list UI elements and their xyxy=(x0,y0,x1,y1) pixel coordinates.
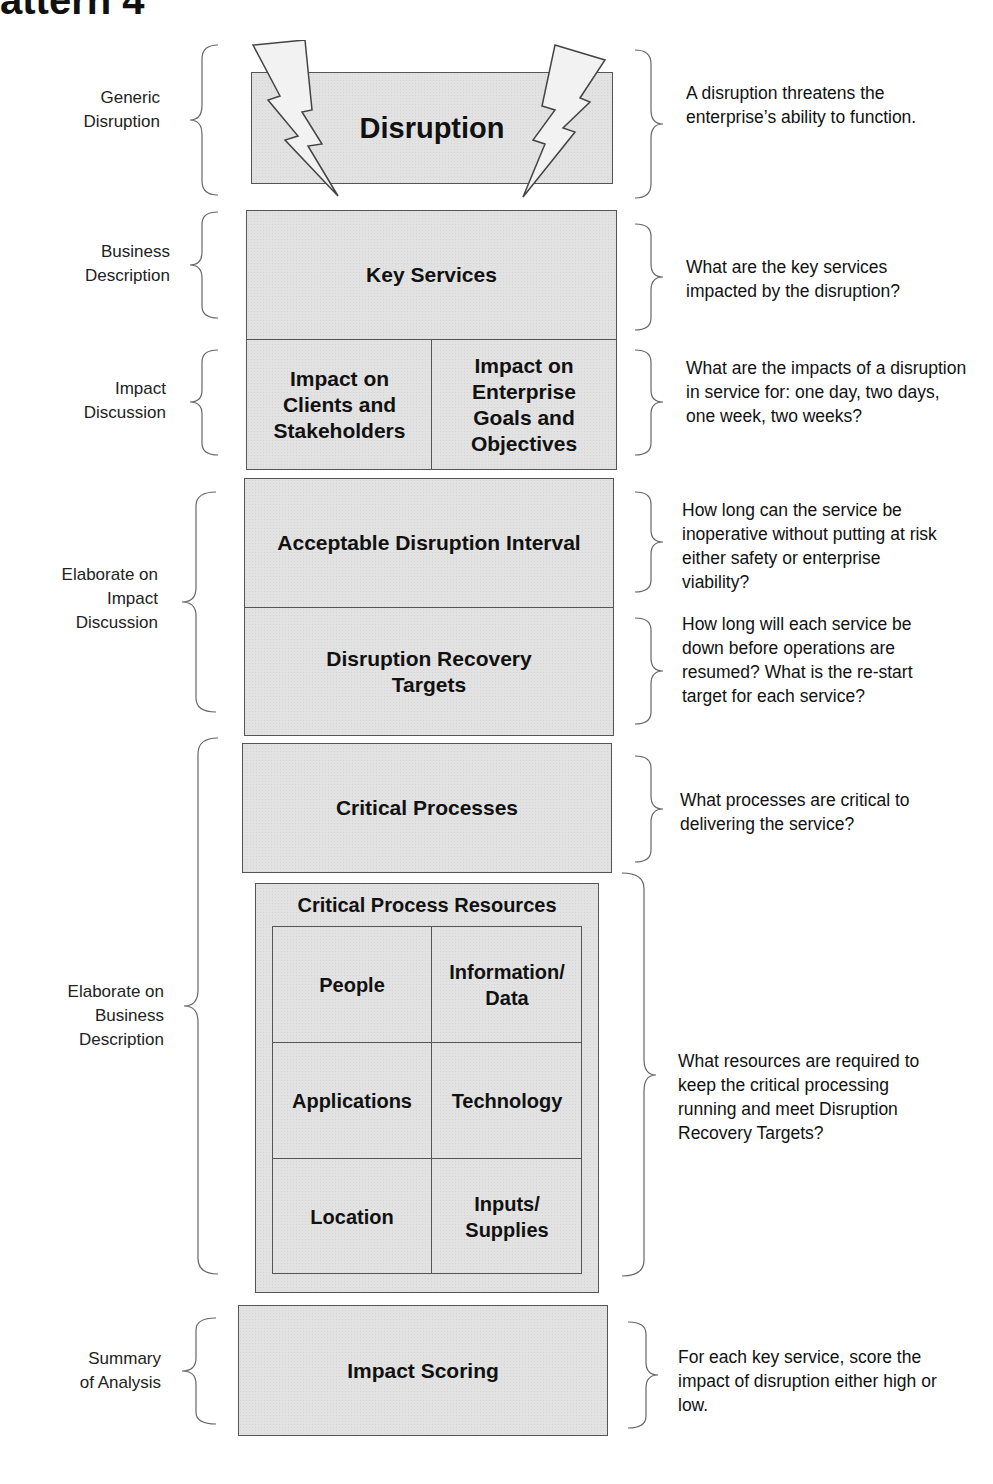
critical-process-resources-label: Critical Process Resources xyxy=(256,892,598,918)
left-label-elaborate-impact: Elaborate on Impact Discussion xyxy=(30,563,158,635)
left-brace-icon xyxy=(190,45,220,195)
critical-processes-wrap: Critical Processes xyxy=(243,744,611,872)
right-brace-icon xyxy=(622,873,662,1276)
key-services-label: Key Services xyxy=(366,262,497,288)
right-label-key-services: What are the key services impacted by th… xyxy=(686,255,961,303)
impact-scoring-box: Impact Scoring xyxy=(238,1305,608,1436)
right-label-critical-resources: What resources are required to keep the … xyxy=(678,1049,948,1145)
right-label-impact-discussion: What are the impacts of a disruption in … xyxy=(686,356,971,428)
left-label-impact-discussion: Impact Discussion xyxy=(40,377,166,425)
left-label-business-description: Business Description xyxy=(40,240,170,288)
impact-scoring-wrap: Impact Scoring xyxy=(239,1306,607,1435)
resource-label: Inputs/ Supplies xyxy=(452,1191,562,1243)
right-brace-icon xyxy=(635,618,665,724)
right-brace-icon xyxy=(628,1322,668,1428)
right-brace-icon xyxy=(635,50,665,198)
page-title-fragment: attern 4 xyxy=(0,0,145,23)
resource-cell-applications: Applications xyxy=(272,1042,431,1158)
resource-label: Information/ Data xyxy=(442,959,572,1011)
resource-label: People xyxy=(319,972,385,998)
acceptable-disruption-interval-box: Acceptable Disruption Interval xyxy=(245,479,613,607)
resource-cell-people: People xyxy=(272,926,431,1042)
resource-label: Location xyxy=(310,1204,393,1230)
impact-clients-label: Impact on Clients and Stakeholders xyxy=(260,366,420,444)
key-services-box: Key Services xyxy=(247,211,616,339)
lightning-bolt-right-icon xyxy=(515,40,615,200)
right-label-critical-processes: What processes are critical to deliverin… xyxy=(680,788,950,836)
lightning-bolt-left-icon xyxy=(250,40,370,200)
impact-clients-cell: Impact on Clients and Stakeholders xyxy=(247,339,432,469)
left-brace-icon xyxy=(180,738,220,1274)
resource-label: Applications xyxy=(292,1088,412,1114)
right-label-impact-scoring: For each key service, score the impact o… xyxy=(678,1345,953,1417)
critical-processes-box: Critical Processes xyxy=(242,743,612,873)
disruption-recovery-targets-box: Disruption Recovery Targets xyxy=(245,607,613,735)
impact-scoring-label: Impact Scoring xyxy=(347,1358,499,1384)
resource-cell-location: Location xyxy=(272,1158,431,1274)
left-label-generic-disruption: Generic Disruption xyxy=(40,86,160,134)
disruption-recovery-targets-label: Disruption Recovery Targets xyxy=(309,646,549,698)
elaborate-impact-group: Acceptable Disruption Interval Disruptio… xyxy=(244,478,614,736)
left-brace-icon xyxy=(190,350,220,455)
left-brace-icon xyxy=(178,1318,218,1424)
resource-cell-inputs-supplies: Inputs/ Supplies xyxy=(431,1158,582,1274)
right-brace-icon xyxy=(635,492,665,592)
right-brace-icon xyxy=(635,350,665,455)
resource-label: Technology xyxy=(452,1088,563,1114)
acceptable-disruption-interval-label: Acceptable Disruption Interval xyxy=(277,530,580,556)
right-label-disruption: A disruption threatens the enterprise’s … xyxy=(686,81,961,129)
left-brace-icon xyxy=(178,492,218,712)
left-brace-icon xyxy=(190,212,220,318)
impact-enterprise-label: Impact on Enterprise Goals and Objective… xyxy=(459,353,589,457)
critical-process-resources-box: Critical Process Resources People Inform… xyxy=(255,883,599,1293)
left-label-elaborate-business: Elaborate on Business Description xyxy=(30,980,164,1052)
right-label-acceptable-interval: How long can the service be inoperative … xyxy=(682,498,942,594)
key-services-group: Key Services Impact on Clients and Stake… xyxy=(246,210,617,470)
resource-cell-technology: Technology xyxy=(431,1042,582,1158)
right-brace-icon xyxy=(635,224,665,330)
right-brace-icon xyxy=(635,756,665,862)
left-label-summary: Summary of Analysis xyxy=(40,1347,161,1395)
critical-processes-label: Critical Processes xyxy=(336,795,518,821)
resources-grid: People Information/ Data Applications Te… xyxy=(272,926,582,1274)
right-label-recovery-targets: How long will each service be down befor… xyxy=(682,612,942,708)
resource-cell-information-data: Information/ Data xyxy=(431,926,582,1042)
impact-enterprise-cell: Impact on Enterprise Goals and Objective… xyxy=(431,339,616,469)
